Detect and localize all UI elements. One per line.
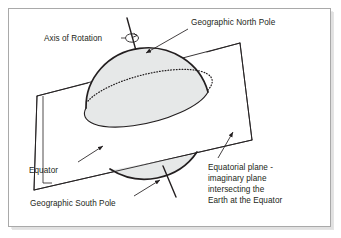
label-equatorial-plane-line4: Earth at the Equator (208, 196, 283, 205)
label-geographic-north-pole: Geographic North Pole (191, 18, 276, 27)
label-axis-of-rotation: Axis of Rotation (44, 34, 103, 43)
label-equatorial-plane-line2: imaginary plane (208, 174, 267, 183)
earth-equatorial-plane-diagram: Axis of Rotation Geographic North Pole E… (0, 0, 341, 238)
label-equatorial-plane-line3: intersecting the (208, 185, 265, 194)
label-equatorial-plane-line1: Equatorial plane - (208, 163, 273, 172)
figure-root: Axis of Rotation Geographic North Pole E… (0, 0, 341, 238)
label-equator: Equator (29, 166, 58, 175)
label-geographic-south-pole: Geographic South Pole (30, 199, 116, 208)
